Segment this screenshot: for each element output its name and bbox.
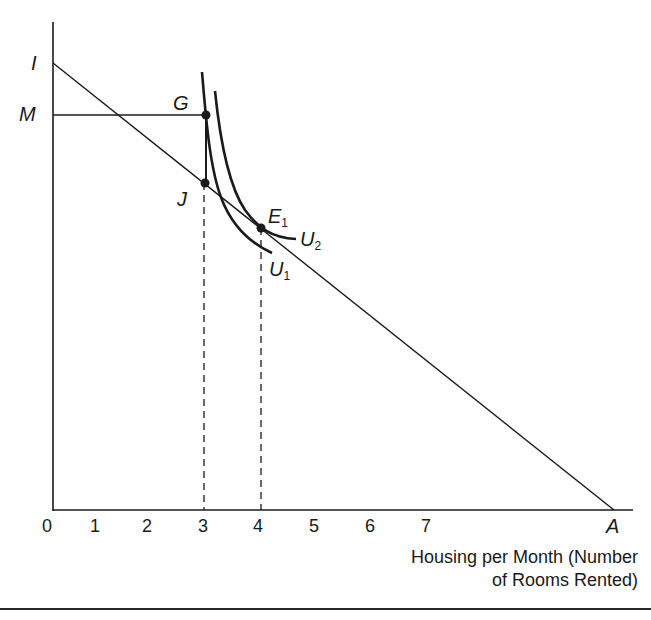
point-g [202,111,211,120]
x-axis-title-line1: Housing per Month (Number [411,546,638,569]
label-a: A [606,515,619,538]
label-i: I [31,52,37,75]
label-j: J [177,188,187,211]
x-axis-title-line2: of Rooms Rented) [411,569,638,592]
label-u1-main: U [269,258,283,280]
point-e1 [257,224,266,233]
label-m: M [19,103,36,126]
x-tick-1: 1 [90,516,100,537]
label-e1: E1 [268,205,288,228]
x-tick-4: 4 [253,516,263,537]
label-g: G [173,92,189,115]
x-tick-5: 5 [309,516,319,537]
label-u1: U1 [269,258,290,281]
budget-line [53,63,614,510]
label-u2-main: U [300,228,314,250]
x-tick-3: 3 [198,516,208,537]
label-e-sub: 1 [281,216,288,230]
x-tick-0: 0 [42,516,52,537]
label-e: E [268,205,281,227]
x-tick-7: 7 [421,516,431,537]
point-j [201,179,210,188]
x-tick-2: 2 [142,516,152,537]
x-axis-title: Housing per Month (Number of Rooms Rente… [411,546,638,592]
x-tick-6: 6 [365,516,375,537]
label-u2: U2 [300,228,321,251]
label-u2-sub: 2 [314,239,321,253]
label-u1-sub: 1 [283,269,290,283]
